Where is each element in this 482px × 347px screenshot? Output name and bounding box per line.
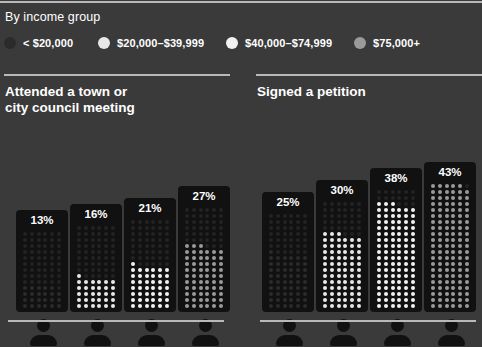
waffle-dot bbox=[391, 238, 395, 242]
waffle-dot bbox=[219, 298, 223, 302]
waffle-dot bbox=[57, 262, 61, 266]
waffle-dot bbox=[276, 244, 280, 248]
bar-group[interactable]: 25% bbox=[262, 192, 314, 312]
waffle-dot bbox=[458, 214, 462, 218]
bar[interactable]: 21% bbox=[124, 198, 176, 312]
waffle-row bbox=[185, 298, 223, 302]
waffle-dot bbox=[23, 262, 27, 266]
waffle-row bbox=[431, 250, 469, 254]
bar-value-label: 30% bbox=[316, 184, 368, 196]
waffle-row bbox=[377, 304, 415, 308]
waffle-dot bbox=[43, 298, 47, 302]
waffle-dot bbox=[57, 256, 61, 260]
waffle-dot bbox=[296, 268, 300, 272]
bar-value-label: 25% bbox=[262, 196, 314, 208]
waffle-dot bbox=[84, 250, 88, 254]
legend-item-1[interactable]: $20,000–$39,999 bbox=[98, 33, 204, 53]
person-body-icon bbox=[276, 335, 303, 346]
bar[interactable]: 30% bbox=[316, 180, 368, 312]
waffle-dot bbox=[465, 280, 469, 284]
waffle-dot bbox=[451, 202, 455, 206]
bar[interactable]: 38% bbox=[370, 168, 422, 312]
waffle-dot bbox=[465, 268, 469, 272]
waffle-dot bbox=[269, 256, 273, 260]
waffle-row bbox=[185, 232, 223, 236]
waffle-dot bbox=[104, 298, 108, 302]
bar-group[interactable]: 43% bbox=[424, 162, 476, 312]
bar[interactable]: 27% bbox=[178, 186, 230, 312]
bar-group[interactable]: 13% bbox=[16, 210, 68, 312]
bar[interactable]: 25% bbox=[262, 192, 314, 312]
waffle-dot bbox=[411, 256, 415, 260]
waffle-dot bbox=[57, 280, 61, 284]
waffle-dot bbox=[205, 220, 209, 224]
waffle-dot bbox=[337, 244, 341, 248]
waffle-dot bbox=[337, 208, 341, 212]
waffle-dot bbox=[269, 268, 273, 272]
waffle-row bbox=[269, 220, 307, 224]
waffle-dot bbox=[145, 250, 149, 254]
legend-dot-40k-74k-icon bbox=[226, 37, 238, 49]
waffle-dot bbox=[350, 292, 354, 296]
legend-item-3[interactable]: $75,000+ bbox=[354, 33, 420, 53]
waffle-dot bbox=[377, 208, 381, 212]
waffle-row bbox=[431, 190, 469, 194]
bar-group[interactable]: 21% bbox=[124, 198, 176, 312]
bar-group[interactable]: 27% bbox=[178, 186, 230, 312]
panel-top-divider-left bbox=[4, 74, 230, 76]
bar[interactable]: 13% bbox=[16, 210, 68, 312]
waffle-dot bbox=[269, 298, 273, 302]
waffle-dot bbox=[131, 298, 135, 302]
bar-group[interactable]: 16% bbox=[70, 204, 122, 312]
waffle-dot bbox=[465, 226, 469, 230]
waffle-dot bbox=[350, 214, 354, 218]
waffle-row bbox=[323, 268, 361, 272]
waffle-dot bbox=[289, 220, 293, 224]
waffle-row bbox=[23, 268, 61, 272]
waffle-dot bbox=[451, 232, 455, 236]
waffle-dot bbox=[192, 268, 196, 272]
waffle-dot bbox=[30, 232, 34, 236]
waffle-dot bbox=[330, 280, 334, 284]
waffle-dot bbox=[212, 304, 216, 308]
speech-bubble-tail-icon bbox=[32, 311, 41, 312]
waffle-dot bbox=[84, 256, 88, 260]
bar-group[interactable]: 38% bbox=[370, 168, 422, 312]
waffle-dot bbox=[77, 292, 81, 296]
waffle-dot bbox=[97, 256, 101, 260]
waffle-dot bbox=[199, 232, 203, 236]
bar-group[interactable]: 30% bbox=[316, 180, 368, 312]
legend-dot-20k-39k-icon bbox=[98, 37, 110, 49]
waffle-dot bbox=[303, 232, 307, 236]
waffle-dot bbox=[377, 226, 381, 230]
waffle-dot bbox=[465, 262, 469, 266]
waffle-dot bbox=[337, 286, 341, 290]
waffle-dot bbox=[431, 256, 435, 260]
waffle-dot bbox=[185, 220, 189, 224]
waffle-dot bbox=[458, 292, 462, 296]
waffle-row bbox=[185, 244, 223, 248]
panel-bottom-divider-right bbox=[260, 320, 476, 322]
waffle-dot bbox=[199, 208, 203, 212]
bar[interactable]: 16% bbox=[70, 204, 122, 312]
waffle-dot bbox=[465, 256, 469, 260]
bar-value-label: 13% bbox=[16, 214, 68, 226]
legend-item-0[interactable]: < $20,000 bbox=[4, 33, 73, 53]
bar[interactable]: 43% bbox=[424, 162, 476, 312]
waffle-dot bbox=[91, 298, 95, 302]
waffle-dot bbox=[397, 226, 401, 230]
waffle-dot bbox=[131, 226, 135, 230]
waffle-dot bbox=[465, 214, 469, 218]
waffle-dot bbox=[431, 262, 435, 266]
waffle-dot bbox=[445, 232, 449, 236]
waffle-dot bbox=[23, 274, 27, 278]
waffle-dot bbox=[438, 232, 442, 236]
waffle-dot bbox=[438, 190, 442, 194]
waffle-dot bbox=[404, 286, 408, 290]
waffle-row bbox=[77, 298, 115, 302]
legend-item-2[interactable]: $40,000–$74,999 bbox=[226, 33, 332, 53]
waffle-dot bbox=[458, 208, 462, 212]
waffle-dot bbox=[411, 238, 415, 242]
person-body-icon bbox=[192, 335, 219, 346]
waffle-dot bbox=[219, 286, 223, 290]
